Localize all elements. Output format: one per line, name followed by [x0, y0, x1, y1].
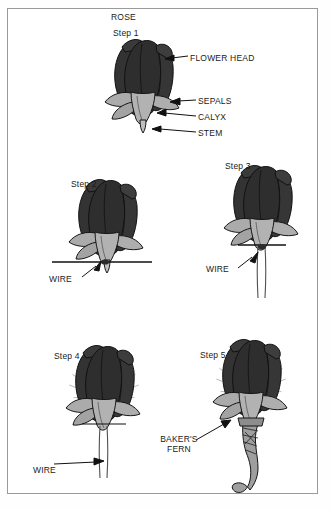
ribbon-wrapped-stem	[232, 418, 264, 493]
step-2-label: Step 2	[71, 179, 97, 189]
step-3-label: Step 3	[225, 161, 251, 171]
step-5-callout-bakers-fern-label: BAKER'S FERN	[150, 434, 208, 454]
step-4-label: Step 4	[54, 351, 80, 361]
step-3-illustration	[224, 166, 298, 298]
step-5-illustration	[196, 340, 287, 493]
step-2-callout-wire-label: WIRE	[49, 274, 72, 284]
callout-stem-label: STEM	[198, 128, 222, 138]
step-1-label: Step 1	[113, 28, 139, 38]
figure-root: ROSE Step 1 FLOWER HEAD SEPALS CALYX STE…	[0, 0, 331, 510]
step-3-callout-wire-label: WIRE	[206, 264, 229, 274]
callout-sepals-label: SEPALS	[198, 96, 232, 106]
step-2-illustration	[52, 180, 152, 277]
figure-title: ROSE	[111, 12, 136, 22]
step-4-illustration	[54, 346, 140, 478]
step-5-label: Step 5	[200, 350, 226, 360]
callout-calyx-label: CALYX	[198, 112, 226, 122]
callout-flower-head-label: FLOWER HEAD	[190, 53, 255, 63]
step-4-callout-wire-label: WIRE	[33, 465, 56, 475]
step-1-illustration	[105, 40, 196, 133]
